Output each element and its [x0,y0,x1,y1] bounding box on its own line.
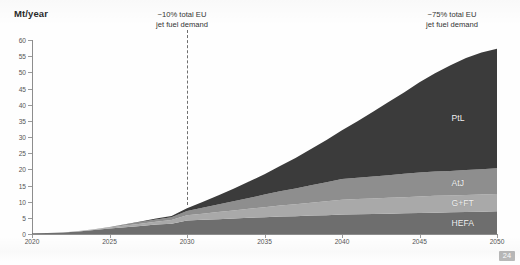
x-tick-label-2020: 2020 [25,238,40,245]
y-tick-label-15: 15 [10,182,26,189]
y-tick-label-25: 25 [10,150,26,157]
series-label-atj: AtJ [452,178,464,188]
page-number-badge: 24 [499,251,515,261]
x-tick-label-2040: 2040 [335,238,350,245]
y-tick-label-5: 5 [10,214,26,221]
x-tick-mark-2040 [342,235,343,238]
y-tick-label-45: 45 [10,85,26,92]
y-tick-label-20: 20 [10,166,26,173]
marker-line-2030 [187,30,188,205]
y-tick-label-55: 55 [10,53,26,60]
annotation-2050-line1: ~75% total EU [428,10,477,19]
x-tick-mark-2050 [497,235,498,238]
series-label-ptl: PtL [452,113,465,123]
annotation-2050-line2: jet fuel demand [392,20,512,30]
y-tick-label-50: 50 [10,69,26,76]
x-tick-label-2025: 2025 [102,238,117,245]
y-tick-label-0: 0 [10,231,26,238]
y-tick-label-35: 35 [10,117,26,124]
annotation-2030-line1: ~10% total EU [158,10,207,19]
x-tick-label-2030: 2030 [180,238,195,245]
y-axis-unit-title: Mt/year [14,8,48,19]
y-tick-label-40: 40 [10,101,26,108]
x-tick-label-2045: 2045 [412,238,427,245]
x-tick-label-2035: 2035 [257,238,272,245]
area-layers [32,49,497,234]
stacked-area-chart [32,40,497,234]
x-tick-mark-2020 [32,235,33,238]
x-tick-mark-2035 [265,235,266,238]
y-tick-label-30: 30 [10,134,26,141]
annotation-2050: ~75% total EU jet fuel demand [392,10,512,31]
series-label-hefa: HEFA [452,218,474,228]
slide-canvas: Mt/year ~10% total EU jet fuel demand ~7… [0,0,520,265]
y-tick-label-60: 60 [10,37,26,44]
series-label-g-ft: G+FT [452,198,474,208]
x-tick-label-2050: 2050 [490,238,505,245]
y-tick-label-10: 10 [10,198,26,205]
annotation-2030-line2: jet fuel demand [122,20,242,30]
x-tick-mark-2030 [187,235,188,238]
x-tick-mark-2045 [420,235,421,238]
annotation-2030: ~10% total EU jet fuel demand [122,10,242,31]
x-tick-mark-2025 [110,235,111,238]
